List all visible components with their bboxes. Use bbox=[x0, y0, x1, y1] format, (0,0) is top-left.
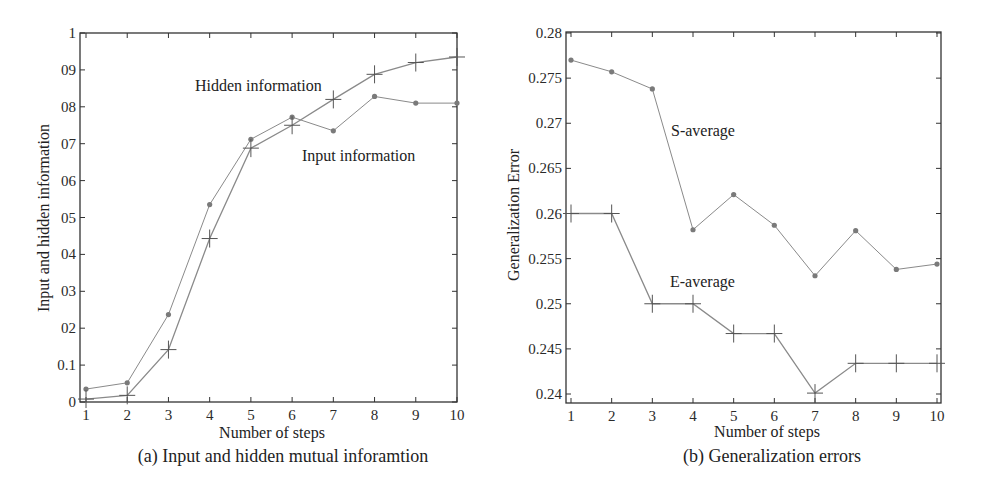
y-tick-label: 06 bbox=[61, 173, 77, 189]
dot-marker bbox=[609, 69, 614, 74]
y-tick-label: 02 bbox=[61, 320, 76, 336]
series-line bbox=[571, 60, 937, 276]
chart-b-x-axis-label: Number of steps bbox=[714, 423, 820, 441]
dot-marker bbox=[690, 227, 695, 232]
y-tick-label: 07 bbox=[61, 136, 77, 152]
chart-b-ticks: 123456789100.240.2450.250.2550.260.2650.… bbox=[528, 25, 944, 424]
y-tick-label: 0 bbox=[69, 394, 77, 410]
x-tick-label: 3 bbox=[165, 407, 173, 423]
chart-a-x-axis-label: Number of steps bbox=[219, 424, 325, 442]
chart-b-series bbox=[563, 57, 945, 402]
x-tick-label: 2 bbox=[608, 408, 616, 424]
y-tick-label: 05 bbox=[61, 210, 76, 226]
dot-marker bbox=[853, 228, 858, 233]
y-tick-label: 1 bbox=[69, 25, 77, 41]
y-tick-label: 03 bbox=[61, 283, 76, 299]
y-tick-label: 0.1 bbox=[57, 357, 76, 373]
y-tick-label: 09 bbox=[61, 62, 76, 78]
chart-a: 1234567891000.102030405060708091 Hidden … bbox=[35, 25, 465, 467]
x-tick-label: 5 bbox=[730, 408, 738, 424]
x-tick-label: 6 bbox=[288, 407, 296, 423]
x-tick-label: 4 bbox=[206, 407, 214, 423]
chart-b-y-axis-label: Generalization Error bbox=[505, 148, 522, 281]
figure: 1234567891000.102030405060708091 Hidden … bbox=[0, 0, 981, 497]
x-tick-label: 7 bbox=[330, 407, 338, 423]
x-tick-label: 5 bbox=[247, 407, 255, 423]
y-tick-label: 0.25 bbox=[536, 296, 562, 312]
x-tick-label: 9 bbox=[412, 407, 420, 423]
x-tick-label: 9 bbox=[893, 408, 901, 424]
y-tick-label: 0.245 bbox=[528, 341, 562, 357]
series-line bbox=[571, 214, 937, 394]
dot-marker bbox=[772, 223, 777, 228]
x-tick-label: 1 bbox=[567, 408, 575, 424]
y-tick-label: 04 bbox=[61, 246, 77, 262]
x-tick-label: 4 bbox=[689, 408, 697, 424]
x-tick-label: 3 bbox=[649, 408, 657, 424]
annotation-input-information: Input information bbox=[302, 147, 415, 165]
chart-b: 123456789100.240.2450.250.2550.260.2650.… bbox=[505, 25, 945, 467]
annotation-e-average: E-average bbox=[670, 273, 735, 291]
dot-marker bbox=[166, 312, 171, 317]
dot-marker bbox=[331, 128, 336, 133]
x-tick-label: 2 bbox=[123, 407, 131, 423]
chart-b-plot-frame bbox=[566, 32, 941, 403]
dot-marker bbox=[125, 380, 130, 385]
dot-marker bbox=[894, 267, 899, 272]
annotation-s-average: S-average bbox=[671, 122, 735, 140]
series-line bbox=[86, 57, 457, 399]
y-tick-label: 0.265 bbox=[528, 160, 562, 176]
series-line bbox=[86, 96, 457, 389]
dot-marker bbox=[650, 86, 655, 91]
dot-marker bbox=[812, 273, 817, 278]
x-tick-label: 8 bbox=[852, 408, 860, 424]
y-tick-label: 08 bbox=[61, 99, 76, 115]
y-tick-label: 0.27 bbox=[536, 115, 563, 131]
y-tick-label: 0.28 bbox=[536, 25, 562, 41]
chart-a-caption: (a) Input and hidden mutual inforamtion bbox=[138, 446, 428, 467]
dot-marker bbox=[372, 94, 377, 99]
x-tick-label: 10 bbox=[450, 407, 465, 423]
annotation-hidden-information: Hidden information bbox=[195, 77, 322, 94]
x-tick-label: 10 bbox=[930, 408, 945, 424]
x-tick-label: 7 bbox=[811, 408, 819, 424]
dot-marker bbox=[454, 101, 459, 106]
chart-b-caption: (b) Generalization errors bbox=[683, 446, 861, 467]
dot-marker bbox=[568, 57, 573, 62]
chart-a-series bbox=[78, 48, 465, 408]
x-tick-label: 6 bbox=[771, 408, 779, 424]
dot-marker bbox=[731, 192, 736, 197]
dot-marker bbox=[413, 101, 418, 106]
dot-marker bbox=[934, 261, 939, 266]
y-tick-label: 0.26 bbox=[536, 206, 563, 222]
dot-marker bbox=[207, 202, 212, 207]
y-tick-label: 0.275 bbox=[528, 70, 562, 86]
x-tick-label: 1 bbox=[82, 407, 90, 423]
y-tick-label: 0.255 bbox=[528, 251, 562, 267]
y-tick-label: 0.24 bbox=[536, 386, 563, 402]
x-tick-label: 8 bbox=[371, 407, 379, 423]
chart-a-y-axis-label: Input and hidden information bbox=[35, 124, 53, 312]
